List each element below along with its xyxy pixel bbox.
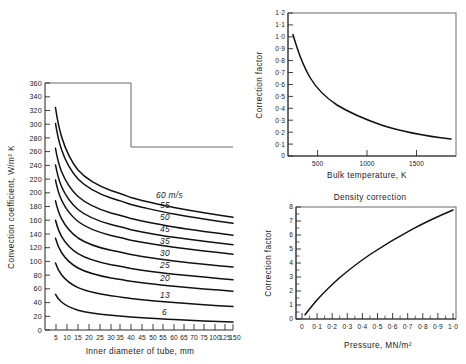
svg-text:120: 120 bbox=[29, 243, 42, 252]
svg-text:15: 15 bbox=[74, 334, 82, 341]
temp-chart-x-ticks bbox=[318, 150, 417, 156]
main-chart-curves bbox=[56, 108, 234, 323]
density-chart-y-ticks bbox=[296, 207, 301, 319]
curve-30 bbox=[56, 201, 234, 267]
curve-45 bbox=[56, 165, 234, 245]
temp-chart-x-ticklabels: 500 1000 1500 bbox=[312, 160, 424, 167]
svg-text:6: 6 bbox=[162, 307, 167, 317]
svg-text:35: 35 bbox=[116, 334, 124, 341]
svg-text:8: 8 bbox=[289, 203, 293, 210]
svg-text:65: 65 bbox=[180, 334, 188, 341]
temp-chart-x-axis-label: Bulk temperature, K bbox=[327, 171, 407, 180]
svg-text:0·8: 0·8 bbox=[418, 323, 428, 330]
main-chart-y-ticklabels: 0 20 40 60 80 100 120 140 160 180 200 22… bbox=[29, 79, 42, 335]
svg-text:20: 20 bbox=[34, 312, 42, 321]
svg-text:0·4: 0·4 bbox=[357, 323, 367, 330]
svg-text:150: 150 bbox=[229, 334, 241, 341]
density-chart-frame bbox=[296, 207, 456, 319]
svg-text:1·0: 1·0 bbox=[275, 33, 285, 40]
density-chart-x-axis-label: Pressure, MN/m² bbox=[344, 341, 412, 350]
svg-text:0: 0 bbox=[38, 326, 42, 335]
svg-text:40: 40 bbox=[34, 298, 42, 307]
svg-text:300: 300 bbox=[29, 120, 42, 129]
svg-text:80: 80 bbox=[34, 271, 42, 280]
svg-text:1: 1 bbox=[289, 301, 293, 308]
temperature-correction-chart: 0 0·1 0·2 0·3 0·4 0·5 0·6 0·7 0·8 0·9 1·… bbox=[255, 9, 456, 180]
svg-text:40: 40 bbox=[127, 334, 135, 341]
svg-text:25: 25 bbox=[96, 334, 104, 341]
svg-text:3: 3 bbox=[289, 273, 293, 280]
main-chart: 0 20 40 60 80 100 120 140 160 180 200 22… bbox=[7, 79, 241, 356]
svg-text:60: 60 bbox=[34, 284, 42, 293]
svg-text:70: 70 bbox=[190, 334, 198, 341]
svg-text:55: 55 bbox=[160, 200, 170, 210]
svg-text:60 m/s: 60 m/s bbox=[156, 190, 183, 200]
main-chart-y-axis-label: Convection coefficient, W/m² K bbox=[7, 145, 16, 269]
svg-text:200: 200 bbox=[29, 188, 42, 197]
svg-text:45: 45 bbox=[138, 334, 146, 341]
svg-text:0: 0 bbox=[289, 315, 293, 322]
temp-correction-curve bbox=[293, 34, 451, 139]
svg-text:0: 0 bbox=[300, 323, 304, 330]
density-chart-title: Density correction bbox=[334, 193, 407, 202]
svg-text:0·1: 0·1 bbox=[312, 323, 322, 330]
svg-text:0·7: 0·7 bbox=[403, 323, 413, 330]
svg-text:5: 5 bbox=[289, 245, 293, 252]
svg-text:280: 280 bbox=[29, 134, 42, 143]
svg-text:1·0: 1·0 bbox=[448, 323, 458, 330]
svg-text:500: 500 bbox=[312, 160, 324, 167]
curve-35 bbox=[56, 180, 234, 254]
svg-text:75: 75 bbox=[200, 334, 208, 341]
svg-text:1·1: 1·1 bbox=[275, 21, 285, 28]
svg-text:1·2: 1·2 bbox=[275, 9, 285, 16]
svg-text:60: 60 bbox=[170, 334, 178, 341]
temp-chart-y-axis-label: Correction factor bbox=[255, 51, 264, 118]
svg-text:320: 320 bbox=[29, 106, 42, 115]
svg-text:180: 180 bbox=[29, 202, 42, 211]
svg-text:1500: 1500 bbox=[409, 160, 424, 167]
curve-60 bbox=[56, 108, 234, 218]
svg-text:0·6: 0·6 bbox=[275, 81, 285, 88]
density-chart-y-axis-label: Correction factor bbox=[264, 229, 273, 296]
svg-text:2: 2 bbox=[289, 287, 293, 294]
svg-text:0·6: 0·6 bbox=[388, 323, 398, 330]
density-chart-x-ticks bbox=[302, 313, 453, 319]
svg-text:340: 340 bbox=[29, 92, 42, 101]
temp-chart-y-ticklabels: 0 0·1 0·2 0·3 0·4 0·5 0·6 0·7 0·8 0·9 1·… bbox=[275, 9, 285, 159]
svg-text:0: 0 bbox=[281, 152, 285, 159]
svg-text:30: 30 bbox=[107, 334, 115, 341]
svg-text:260: 260 bbox=[29, 147, 42, 156]
svg-text:0·8: 0·8 bbox=[275, 57, 285, 64]
svg-text:0·4: 0·4 bbox=[275, 105, 285, 112]
svg-text:0·9: 0·9 bbox=[433, 323, 443, 330]
svg-text:4: 4 bbox=[289, 259, 293, 266]
svg-text:0·3: 0·3 bbox=[275, 117, 285, 124]
curve-50 bbox=[56, 148, 234, 235]
svg-text:0·9: 0·9 bbox=[275, 45, 285, 52]
charts-svg: 0 20 40 60 80 100 120 140 160 180 200 22… bbox=[0, 0, 466, 364]
svg-text:7: 7 bbox=[289, 217, 293, 224]
svg-text:0·2: 0·2 bbox=[275, 129, 285, 136]
svg-text:20: 20 bbox=[85, 334, 93, 341]
svg-text:240: 240 bbox=[29, 161, 42, 170]
svg-text:45: 45 bbox=[160, 224, 170, 234]
svg-text:50: 50 bbox=[149, 334, 157, 341]
svg-text:140: 140 bbox=[29, 230, 42, 239]
density-correction-curve bbox=[305, 210, 453, 315]
temp-chart-frame bbox=[288, 13, 456, 156]
main-chart-y-ticks bbox=[45, 83, 50, 330]
svg-text:0·5: 0·5 bbox=[373, 323, 383, 330]
svg-text:13: 13 bbox=[160, 290, 170, 300]
figure-container: 0 20 40 60 80 100 120 140 160 180 200 22… bbox=[0, 0, 466, 364]
svg-text:30: 30 bbox=[160, 248, 170, 258]
svg-text:100: 100 bbox=[29, 257, 42, 266]
density-correction-chart: Density correction 0 1 2 bbox=[264, 193, 458, 350]
svg-text:6: 6 bbox=[289, 231, 293, 238]
svg-text:0·2: 0·2 bbox=[327, 323, 337, 330]
svg-text:5: 5 bbox=[54, 334, 58, 341]
svg-text:220: 220 bbox=[29, 175, 42, 184]
svg-text:50: 50 bbox=[160, 212, 170, 222]
main-chart-x-ticks bbox=[56, 324, 233, 330]
curve-6 bbox=[56, 294, 234, 322]
svg-text:360: 360 bbox=[29, 79, 42, 88]
